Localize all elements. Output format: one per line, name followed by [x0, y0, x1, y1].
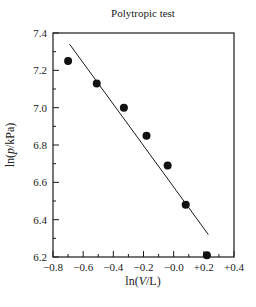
y-tick-label: 6.6: [33, 176, 47, 188]
data-point: [93, 79, 101, 87]
data-point: [203, 251, 211, 259]
x-tick-label: +0.2: [194, 261, 214, 273]
x-tick-label: −0.0: [164, 261, 184, 273]
x-tick-label: −0.6: [73, 261, 93, 273]
x-axis-ticks: −0.8−0.6−0.4−0.2−0.0+0.2+0.4: [43, 251, 244, 273]
x-tick-label: −0.2: [134, 261, 154, 273]
y-tick-label: 7.4: [33, 27, 47, 39]
y-tick-label: 6.8: [33, 139, 47, 151]
x-tick-label: −0.8: [43, 261, 63, 273]
data-series: [64, 44, 211, 259]
data-point: [164, 162, 172, 170]
y-axis-ticks: 6.26.46.66.87.07.27.4: [33, 27, 59, 263]
y-tick-label: 7.0: [33, 102, 47, 114]
fit-line: [70, 44, 209, 234]
polytropic-chart: Polytropic test 6.26.46.66.87.07.27.4 −0…: [0, 0, 256, 307]
data-point: [64, 57, 72, 65]
x-axis-label: ln(V/L): [125, 274, 160, 288]
x-tick-label: −0.4: [103, 261, 123, 273]
x-tick-label: +0.4: [224, 261, 244, 273]
y-tick-label: 7.2: [33, 64, 47, 76]
y-axis-label: ln(p/kPa): [3, 123, 17, 168]
y-tick-label: 6.4: [33, 214, 47, 226]
data-point: [143, 132, 151, 140]
data-point: [120, 104, 128, 112]
chart-title: Polytropic test: [111, 7, 175, 19]
